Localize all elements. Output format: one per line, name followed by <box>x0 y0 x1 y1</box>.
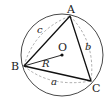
vertex-label-c: C <box>92 82 100 95</box>
side-label-b: b <box>85 41 91 52</box>
radius-label: R <box>41 58 50 69</box>
side-label-c: c <box>37 24 43 35</box>
vertex-label-b: B <box>11 60 19 73</box>
circumcircle-diagram: A B C O R a b c <box>0 0 111 103</box>
side-label-a: a <box>51 76 57 87</box>
vertex-label-a: A <box>66 3 76 16</box>
center-label-o: O <box>58 41 67 54</box>
